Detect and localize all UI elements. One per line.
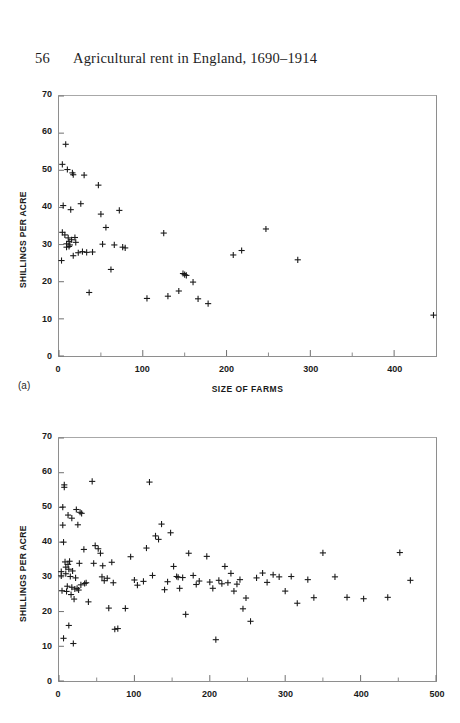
data-point xyxy=(204,553,210,559)
data-point xyxy=(332,574,338,580)
scatter-plot-a xyxy=(59,96,436,356)
y-axis-tick-label: 40 xyxy=(22,201,52,211)
data-point xyxy=(205,301,211,307)
data-point xyxy=(144,295,150,301)
y-axis-tick-label: 70 xyxy=(22,431,52,441)
data-point xyxy=(430,312,436,318)
data-point xyxy=(174,573,180,579)
data-point xyxy=(77,509,83,515)
data-point xyxy=(270,572,276,578)
data-point xyxy=(161,230,167,236)
data-point xyxy=(99,241,105,247)
data-point xyxy=(134,582,140,588)
data-point xyxy=(190,572,196,578)
x-axis-tick-label: 500 xyxy=(417,689,457,699)
data-point xyxy=(112,626,118,632)
data-point xyxy=(213,637,219,643)
data-point xyxy=(122,605,128,611)
data-point xyxy=(58,257,64,263)
data-point xyxy=(60,635,66,641)
data-point xyxy=(171,563,177,569)
y-axis-tick-label: 40 xyxy=(22,536,52,546)
data-point xyxy=(79,510,85,516)
data-point xyxy=(82,580,88,586)
data-point xyxy=(106,605,112,611)
data-point xyxy=(186,550,192,556)
data-point xyxy=(86,289,92,295)
data-point xyxy=(219,581,225,587)
data-point xyxy=(63,588,69,594)
data-point xyxy=(231,588,237,594)
data-point xyxy=(259,570,265,576)
data-point xyxy=(311,595,317,601)
data-point xyxy=(76,560,82,566)
plot-area-a xyxy=(58,95,437,357)
data-point xyxy=(230,252,236,258)
x-axis-tick-label: 200 xyxy=(206,364,246,374)
data-point xyxy=(216,577,222,583)
data-point xyxy=(91,560,97,566)
y-axis-tick-label: 20 xyxy=(22,276,52,286)
data-point xyxy=(168,530,174,536)
data-point xyxy=(63,141,69,147)
data-point xyxy=(109,559,115,565)
scatter-plot-b xyxy=(59,438,436,681)
y-axis-tick-label: 10 xyxy=(22,314,52,324)
data-point xyxy=(70,253,76,259)
data-point xyxy=(183,611,189,617)
data-point xyxy=(110,580,116,586)
plot-area-b xyxy=(58,437,437,682)
data-point xyxy=(68,591,74,597)
data-point xyxy=(84,249,90,255)
data-point xyxy=(131,577,137,583)
y-axis-tick-label: 70 xyxy=(22,89,52,99)
data-point xyxy=(75,250,81,256)
data-point xyxy=(103,224,109,230)
data-point xyxy=(193,581,199,587)
data-point xyxy=(115,626,121,632)
data-point xyxy=(237,577,243,583)
data-point xyxy=(59,161,65,167)
data-point xyxy=(73,506,79,512)
x-axis-tick-label: 300 xyxy=(265,689,305,699)
x-axis-tick-label: 0 xyxy=(38,364,78,374)
data-point xyxy=(143,545,149,551)
data-point xyxy=(344,594,350,600)
data-point xyxy=(164,579,170,585)
data-point xyxy=(225,580,231,586)
data-point xyxy=(295,257,301,263)
data-point xyxy=(240,606,246,612)
data-point xyxy=(288,573,294,579)
y-axis-tick-label: 30 xyxy=(22,239,52,249)
y-axis-tick-label: 60 xyxy=(22,466,52,476)
data-point xyxy=(64,583,70,589)
data-point xyxy=(180,574,186,580)
data-point xyxy=(158,521,164,527)
data-point xyxy=(165,293,171,299)
data-point xyxy=(407,577,413,583)
y-axis-tick-label: 50 xyxy=(22,164,52,174)
data-point xyxy=(98,211,104,217)
data-point xyxy=(247,618,253,624)
data-point xyxy=(146,479,152,485)
data-point xyxy=(67,573,73,579)
data-point xyxy=(161,587,167,593)
data-point xyxy=(253,575,259,581)
panel-label-a: (a) xyxy=(18,380,30,391)
figure-panel-a: SHILLINGS PER ACRE SIZE OF FARMS (a) 010… xyxy=(0,88,460,408)
data-point xyxy=(176,288,182,294)
data-point xyxy=(140,578,146,584)
data-point xyxy=(116,207,122,213)
data-point xyxy=(385,594,391,600)
data-point xyxy=(155,536,161,542)
running-head: 56 Agricultural rent in England, 1690–19… xyxy=(0,50,460,74)
figure-panel-b: SHILLINGS PER ACRE 010203040506070010020… xyxy=(0,430,460,723)
x-axis-title-a: SIZE OF FARMS xyxy=(58,384,437,394)
data-point xyxy=(152,533,158,539)
data-point xyxy=(69,515,75,521)
y-axis-tick-label: 60 xyxy=(22,126,52,136)
y-axis-tick-label: 0 xyxy=(22,676,52,686)
y-axis-tick-label: 50 xyxy=(22,501,52,511)
data-point xyxy=(60,539,66,545)
data-point xyxy=(222,563,228,569)
